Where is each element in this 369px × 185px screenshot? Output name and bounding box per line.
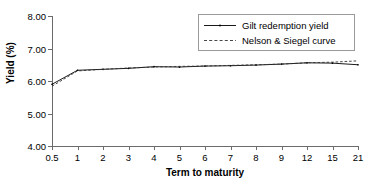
x-tick-label: 15 [327, 152, 338, 163]
x-tick-label: 21 [353, 152, 364, 163]
x-tick [358, 146, 359, 150]
x-tick [205, 146, 206, 150]
y-tick-label: 8.00 [28, 12, 47, 21]
x-tick-label: 3 [126, 152, 131, 163]
x-tick-label: 12 [302, 152, 313, 163]
x-tick-label: 7 [228, 152, 233, 163]
legend-label-series-1: Gilt redemption yield [242, 20, 329, 31]
x-tick [256, 146, 257, 150]
x-tick [52, 146, 53, 150]
x-tick [333, 146, 334, 150]
series-line-2 [52, 61, 358, 86]
chart-container: Yield (%) 4.005.006.007.008.00 0.5123456… [0, 0, 369, 185]
y-tick-label: 5.00 [28, 109, 47, 118]
x-axis-title: Term to maturity [52, 166, 358, 180]
x-tick-label: 0.5 [45, 152, 58, 163]
legend-solid-line-icon [203, 20, 237, 31]
x-tick-label: 9 [279, 152, 284, 163]
x-tick [180, 146, 181, 150]
x-tick [307, 146, 308, 150]
x-tick-label: 2 [100, 152, 105, 163]
x-tick [78, 146, 79, 150]
x-tick-label: 1 [75, 152, 80, 163]
legend-dashed-line-icon [203, 35, 237, 46]
x-tick-label: 6 [202, 152, 207, 163]
y-tick-label: 6.00 [28, 77, 47, 86]
x-tick [154, 146, 155, 150]
y-axis-title: Yield (%) [4, 21, 18, 105]
x-tick-label: 4 [151, 152, 156, 163]
x-tick [103, 146, 104, 150]
data-point-marker [357, 64, 359, 66]
y-tick-label: 4.00 [28, 142, 47, 151]
y-tick-label: 7.00 [28, 44, 47, 53]
legend-item-nelson-siegel-curve[interactable]: Nelson & Siegel curve [203, 33, 350, 48]
legend-item-gilt-redemption-yield[interactable]: Gilt redemption yield [203, 18, 350, 33]
chart-legend: Gilt redemption yield Nelson & Siegel cu… [198, 14, 355, 51]
x-tick [129, 146, 130, 150]
x-tick-label: 8 [253, 152, 258, 163]
x-tick-label: 5 [177, 152, 182, 163]
data-point-marker [51, 83, 53, 85]
legend-label-series-2: Nelson & Siegel curve [242, 35, 335, 46]
x-tick [231, 146, 232, 150]
x-tick [282, 146, 283, 150]
